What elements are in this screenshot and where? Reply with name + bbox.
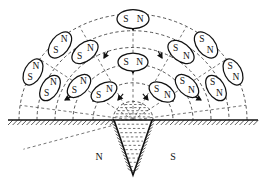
- needle-south-pole-label: S: [77, 51, 82, 61]
- needle-north-pole-label: N: [61, 34, 68, 44]
- needle-south-pole-label: S: [72, 85, 77, 95]
- needle-north-pole-label: N: [216, 88, 223, 98]
- needle-south-pole-label: S: [154, 84, 159, 94]
- magnet-north-label: N: [95, 151, 102, 162]
- needle-south-pole-label: S: [227, 61, 232, 71]
- needle-south-pole-label: S: [96, 90, 101, 100]
- needle-north-pole-label: N: [188, 85, 195, 95]
- compass-needle-outline: [117, 10, 149, 29]
- needle-south-pole-label: S: [210, 77, 215, 87]
- needle-north-pole-label: N: [87, 43, 94, 53]
- needle-north-pole-label: N: [164, 90, 171, 100]
- needle-south-pole-label: S: [124, 57, 129, 67]
- magnet-south-label: S: [170, 151, 176, 162]
- needle-north-pole-label: N: [137, 14, 144, 24]
- needle-south-pole-label: S: [173, 43, 178, 53]
- needle-north-pole-label: N: [50, 77, 57, 87]
- needle-north-pole-label: N: [233, 72, 240, 82]
- needle-south-pole-label: S: [199, 34, 204, 44]
- needle-north-pole-label: N: [207, 45, 214, 55]
- needle-north-pole-label: N: [136, 57, 143, 67]
- needle-north-pole-label: N: [33, 61, 40, 71]
- needle-south-pole-label: S: [123, 14, 128, 24]
- compass-needle: SN: [118, 53, 148, 71]
- needle-south-pole-label: S: [44, 88, 49, 98]
- needle-south-pole-label: S: [180, 76, 185, 86]
- compass-needle-outline: [118, 53, 148, 71]
- needle-south-pole-label: S: [53, 45, 58, 55]
- needle-north-pole-label: N: [183, 51, 190, 61]
- magnetic-field-diagram: SNSNSNSNSNSNSNSNSNSNSNSNSNSN N S: [0, 0, 266, 184]
- needle-north-pole-label: N: [80, 76, 87, 86]
- needle-south-pole-label: S: [27, 72, 32, 82]
- compass-needle: SN: [117, 10, 149, 29]
- needle-north-pole-label: N: [106, 84, 113, 94]
